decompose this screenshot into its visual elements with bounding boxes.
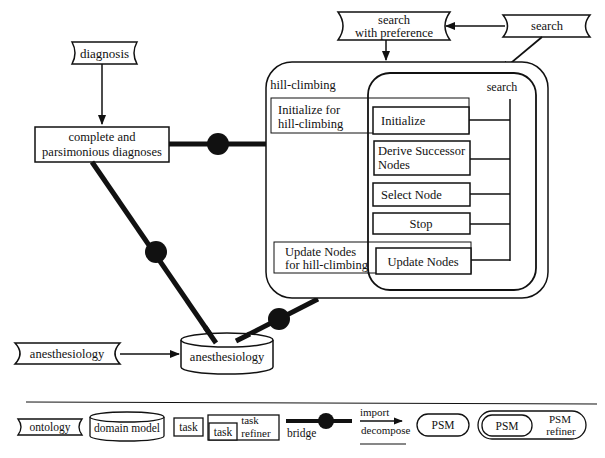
ontology-label-line1: search bbox=[378, 13, 411, 27]
task-stop[interactable]: Stop bbox=[373, 213, 470, 234]
ontology-diagnosis[interactable]: diagnosis bbox=[72, 42, 137, 64]
domain-model-label: anesthesiology bbox=[190, 350, 265, 364]
legend-task-refiner: task task refiner bbox=[208, 414, 279, 440]
task-label-line1: complete and bbox=[69, 130, 137, 144]
svg-text:refiner: refiner bbox=[546, 425, 576, 437]
task-label-line2: parsimonious diagnoses bbox=[42, 145, 162, 159]
legend-divider bbox=[26, 402, 597, 404]
ontology-search-label: search bbox=[531, 19, 564, 33]
legend: ontology domain model task task task ref… bbox=[18, 406, 586, 444]
svg-text:PSM: PSM bbox=[549, 413, 571, 425]
hill-climbing-label: hill-climbing bbox=[270, 78, 336, 92]
legend-psm-refiner: PSM PSM refiner bbox=[478, 411, 586, 439]
svg-text:task: task bbox=[241, 414, 259, 426]
svg-text:decompose: decompose bbox=[361, 424, 411, 436]
task-update-nodes-label: Update Nodes bbox=[387, 255, 458, 269]
bridge-node-icon bbox=[318, 413, 334, 429]
ontology-anesthesiology[interactable]: anesthesiology bbox=[15, 343, 120, 364]
legend-task: task bbox=[174, 418, 203, 436]
search-psm-label: search bbox=[487, 80, 518, 94]
svg-text:task: task bbox=[179, 421, 198, 433]
legend-bridge: bridge bbox=[286, 413, 352, 440]
bridge-task-domain[interactable] bbox=[92, 162, 216, 343]
svg-text:PSM: PSM bbox=[431, 419, 454, 431]
legend-ontology: ontology bbox=[18, 419, 82, 435]
ontology-search[interactable]: search bbox=[503, 15, 590, 37]
refiner-label-line1: Update Nodes bbox=[285, 245, 356, 259]
refiner-label-line2: for hill-climbing bbox=[285, 258, 369, 272]
task-select-node[interactable]: Select Node bbox=[373, 183, 470, 206]
svg-text:bridge: bridge bbox=[287, 427, 316, 440]
task-update-nodes[interactable]: Update Nodes bbox=[376, 248, 471, 274]
legend-import-decompose: import decompose bbox=[360, 406, 411, 444]
refiner-label-line1: Initialize for bbox=[278, 103, 341, 117]
ontology-search-with-preference[interactable]: search with preference bbox=[338, 12, 450, 40]
task-derive-successor-nodes[interactable]: Derive Successor Nodes bbox=[374, 141, 470, 175]
task-derive-label-line1: Derive Successor bbox=[378, 144, 466, 158]
task-initialize[interactable]: Initialize bbox=[373, 107, 469, 134]
svg-text:import: import bbox=[360, 406, 389, 418]
svg-text:ontology: ontology bbox=[30, 421, 71, 434]
domain-model-anesthesiology[interactable]: anesthesiology bbox=[181, 333, 273, 374]
bridge-node-icon bbox=[145, 241, 167, 263]
ontology-label-line2: with preference bbox=[355, 26, 434, 40]
bridge-node-icon bbox=[207, 133, 229, 155]
task-derive-label-line2: Nodes bbox=[378, 158, 410, 172]
bridge-node-icon bbox=[268, 308, 290, 330]
ontology-diagnosis-label: diagnosis bbox=[80, 46, 129, 61]
legend-domain-model: domain model bbox=[90, 412, 164, 441]
ontology-anesthesiology-label: anesthesiology bbox=[30, 347, 105, 361]
svg-text:refiner: refiner bbox=[241, 427, 271, 439]
task-initialize-label: Initialize bbox=[381, 114, 426, 128]
task-stop-label: Stop bbox=[410, 217, 433, 231]
bridge-task-psm[interactable] bbox=[169, 133, 266, 155]
svg-text:PSM: PSM bbox=[495, 420, 518, 432]
refiner-label-line2: hill-climbing bbox=[278, 117, 344, 131]
diagram-canvas: diagnosis complete and parsimonious diag… bbox=[0, 0, 605, 458]
task-select-node-label: Select Node bbox=[381, 188, 442, 202]
svg-text:domain model: domain model bbox=[94, 422, 160, 434]
task-complete-diagnoses[interactable]: complete and parsimonious diagnoses bbox=[35, 127, 169, 162]
legend-psm: PSM bbox=[417, 414, 469, 436]
svg-text:task: task bbox=[214, 426, 233, 438]
